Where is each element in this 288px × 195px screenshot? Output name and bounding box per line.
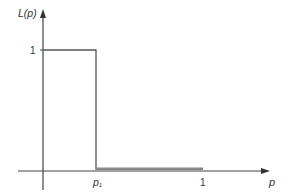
y-axis-arrow-icon bbox=[40, 9, 46, 18]
y-axis-label: L(p) bbox=[18, 7, 37, 19]
step-function-chart: L(p) 1 p1 1 p bbox=[0, 0, 288, 195]
x-tick-label-sub: 1 bbox=[99, 182, 102, 188]
x-axis-arrow-icon bbox=[261, 168, 270, 174]
step-function-line bbox=[43, 50, 203, 169]
x-tick-label-1: 1 bbox=[200, 177, 206, 188]
x-tick-label-p1: p1 bbox=[92, 176, 102, 188]
y-tick-label-1: 1 bbox=[30, 45, 36, 56]
x-axis-label: p bbox=[268, 176, 275, 188]
